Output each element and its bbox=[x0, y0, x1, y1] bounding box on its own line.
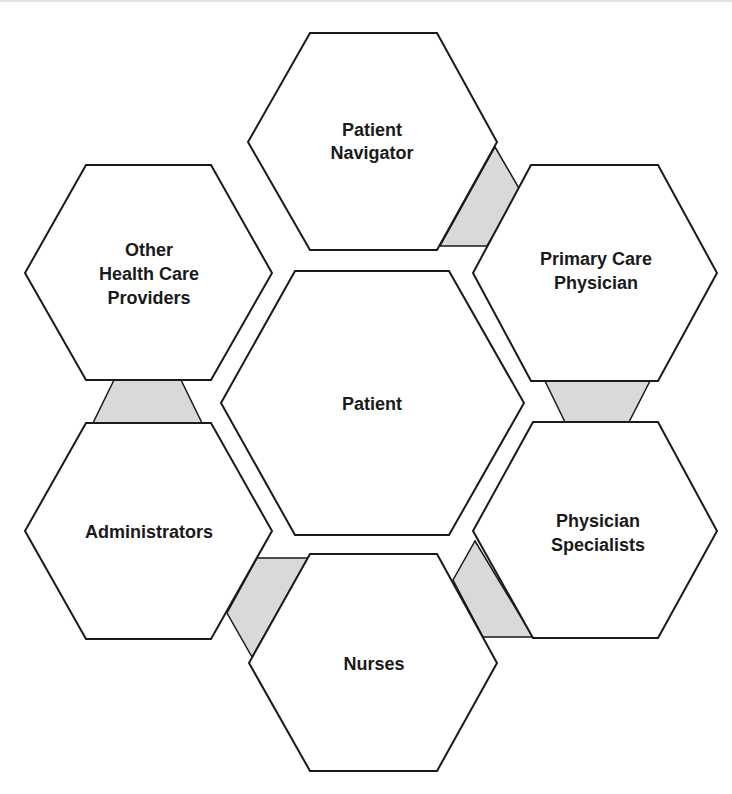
hex-patient: Patient bbox=[221, 271, 524, 535]
hex-primary-care-physician-label-line1: Primary Care bbox=[540, 249, 652, 269]
connector-administrators-to-other-providers bbox=[93, 380, 202, 423]
connector-primary-care-to-specialists bbox=[545, 381, 650, 422]
hex-administrators-label: Administrators bbox=[85, 522, 213, 542]
hex-physician-specialists-label-line2: Specialists bbox=[551, 535, 645, 555]
hex-primary-care-physician-label-line2: Physician bbox=[554, 273, 638, 293]
hex-physician-specialists-label-line1: Physician bbox=[556, 511, 640, 531]
hex-patient-navigator-label-line2: Navigator bbox=[330, 143, 413, 163]
hex-nurses-label: Nurses bbox=[343, 654, 404, 674]
hex-other-providers-label-line1: Other bbox=[125, 240, 173, 260]
hex-other-health-care-providers: Other Health Care Providers bbox=[25, 165, 272, 380]
hex-other-providers-label-line3: Providers bbox=[107, 288, 190, 308]
care-team-hexagon-diagram: Patient Patient Navigator Primary Care P… bbox=[0, 0, 732, 794]
hex-patient-navigator-label-line1: Patient bbox=[342, 120, 402, 140]
hex-other-providers-label-line2: Health Care bbox=[99, 264, 199, 284]
hex-patient-label: Patient bbox=[342, 394, 402, 414]
